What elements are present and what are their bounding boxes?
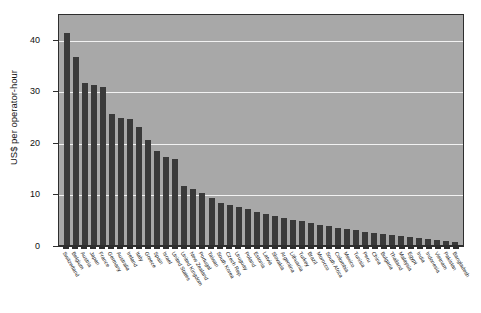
x-axis-label-slot: Tunisia bbox=[354, 250, 360, 313]
bar bbox=[425, 239, 431, 245]
x-axis-label-slot: Turkey bbox=[299, 250, 305, 313]
bar bbox=[299, 221, 305, 245]
x-axis-label-slot: Germany bbox=[108, 250, 114, 313]
x-axis-label-slot: Australia bbox=[117, 250, 123, 313]
bar bbox=[227, 205, 233, 245]
x-axis-label-slot: New Zealand bbox=[190, 250, 196, 313]
x-axis-label-slot: Vietnam bbox=[435, 250, 441, 313]
x-axis-tick bbox=[417, 246, 423, 249]
bar bbox=[245, 209, 251, 245]
x-axis-tick bbox=[127, 246, 133, 249]
y-axis-tick-labels: 010203040 bbox=[0, 14, 50, 246]
x-axis-tick bbox=[63, 246, 69, 249]
x-axis-tick bbox=[145, 246, 151, 249]
x-axis-label-slot: Brazil bbox=[308, 250, 314, 313]
x-axis-label-slot: Peru bbox=[363, 250, 369, 313]
x-axis-label-slot: Uruguay bbox=[235, 250, 241, 313]
bar bbox=[91, 85, 97, 245]
bar bbox=[64, 33, 70, 245]
bar bbox=[136, 127, 142, 245]
bar bbox=[452, 242, 458, 245]
x-axis-tick bbox=[163, 246, 169, 249]
x-axis-tick bbox=[199, 246, 205, 249]
bar bbox=[353, 230, 359, 245]
bar bbox=[190, 189, 196, 245]
x-axis-tick bbox=[308, 246, 314, 249]
x-axis-label-slot: Latvia bbox=[263, 250, 269, 313]
x-axis-tick bbox=[245, 246, 251, 249]
x-axis-tick bbox=[254, 246, 260, 249]
x-axis-tick bbox=[444, 246, 450, 249]
bar bbox=[199, 193, 205, 245]
x-axis-tick bbox=[99, 246, 105, 249]
bar bbox=[344, 229, 350, 245]
x-axis-label-slot: Spain bbox=[154, 250, 160, 313]
x-axis-label-slot: Portugal bbox=[199, 250, 205, 313]
bar bbox=[236, 207, 242, 245]
y-axis-tick-label: 20 bbox=[30, 138, 40, 147]
x-axis-label-slot: Greece bbox=[145, 250, 151, 313]
x-axis-tick bbox=[181, 246, 187, 249]
bar bbox=[335, 228, 341, 245]
bar bbox=[254, 212, 260, 245]
bar bbox=[82, 83, 88, 245]
x-axis-label-slot: Morocco bbox=[317, 250, 323, 313]
x-axis-tick bbox=[354, 246, 360, 249]
bar bbox=[380, 234, 386, 245]
bar bbox=[118, 118, 124, 245]
x-axis-tick bbox=[90, 246, 96, 249]
x-axis-tick bbox=[290, 246, 296, 249]
x-axis-tick bbox=[326, 246, 332, 249]
x-axis-tick bbox=[281, 246, 287, 249]
x-axis-label-slot: Czech Rep. bbox=[226, 250, 232, 313]
x-axis-tick bbox=[235, 246, 241, 249]
bar bbox=[416, 238, 422, 245]
x-axis-label-slot: United States bbox=[172, 250, 178, 313]
x-axis-label-slot: Indonesia bbox=[426, 250, 432, 313]
x-axis-label-slot: Pakistan bbox=[444, 250, 450, 313]
x-axis-label-slot: Ireland bbox=[127, 250, 133, 313]
bar bbox=[290, 220, 296, 245]
x-axis-tick bbox=[72, 246, 78, 249]
x-axis-label-slot: Austria bbox=[81, 250, 87, 313]
x-axis-tick bbox=[381, 246, 387, 249]
x-axis-label-slot: Israel bbox=[163, 250, 169, 313]
x-axis-label-slot: United Kingdom bbox=[181, 250, 187, 313]
bar bbox=[181, 186, 187, 245]
x-axis-label-slot: South Africa bbox=[326, 250, 332, 313]
x-axis-label-slot: Japan bbox=[90, 250, 96, 313]
x-axis-tick bbox=[399, 246, 405, 249]
x-axis-tick bbox=[408, 246, 414, 249]
bar bbox=[73, 57, 79, 245]
bar bbox=[434, 240, 440, 245]
y-axis-tick-label: 30 bbox=[30, 87, 40, 96]
bars-layer bbox=[59, 15, 463, 245]
bar bbox=[362, 232, 368, 245]
plot-area bbox=[58, 14, 464, 246]
x-axis-tick-label: Italy bbox=[134, 251, 144, 262]
x-axis-label-slot: Malaysia bbox=[399, 250, 405, 313]
bar bbox=[389, 235, 395, 245]
bar bbox=[163, 157, 169, 245]
x-axis-tick bbox=[372, 246, 378, 249]
y-axis-tick-label: 40 bbox=[30, 35, 40, 44]
bar bbox=[281, 218, 287, 245]
bar bbox=[100, 87, 106, 245]
x-axis-tick bbox=[136, 246, 142, 249]
x-axis-label-slot: Egypt bbox=[408, 250, 414, 313]
x-axis-label-slot: Taiwan bbox=[208, 250, 214, 313]
x-axis-tick bbox=[226, 246, 232, 249]
bar bbox=[317, 225, 323, 245]
x-axis-label-slot: Switzerland bbox=[63, 250, 69, 313]
bar bbox=[407, 237, 413, 245]
y-axis-tick-label: 0 bbox=[35, 242, 40, 251]
x-axis-tick-labels: SwitzerlandBelgiumAustriaJapanFranceGerm… bbox=[58, 250, 464, 313]
bar bbox=[127, 119, 133, 245]
bar bbox=[109, 114, 115, 245]
bar bbox=[263, 214, 269, 245]
x-axis-tick bbox=[217, 246, 223, 249]
bar bbox=[218, 203, 224, 245]
x-axis-tick bbox=[172, 246, 178, 249]
x-axis-tick bbox=[390, 246, 396, 249]
bar bbox=[172, 159, 178, 245]
